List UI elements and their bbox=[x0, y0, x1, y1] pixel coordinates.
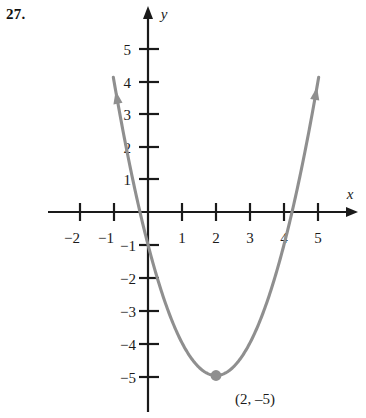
x-tick-label: 1 bbox=[178, 230, 186, 246]
x-tick-label: 3 bbox=[246, 230, 254, 246]
y-axis-label: y bbox=[159, 6, 168, 22]
y-tick-label: −1 bbox=[120, 238, 136, 254]
y-tick-label: 5 bbox=[124, 42, 132, 58]
y-tick-label: −2 bbox=[120, 271, 136, 287]
figure-panel: 27. x y −2 −1 1 2 bbox=[0, 0, 366, 418]
x-tick-label: 5 bbox=[314, 230, 322, 246]
y-tick-label: 4 bbox=[124, 75, 132, 91]
x-axis: x bbox=[48, 186, 358, 217]
x-axis-arrow-icon bbox=[346, 207, 358, 217]
x-tick-label: −1 bbox=[98, 230, 114, 246]
y-axis: y bbox=[143, 6, 168, 412]
parabola-curve bbox=[113, 77, 318, 375]
vertex-annotation: (2, –5) bbox=[211, 370, 275, 408]
x-axis-label: x bbox=[346, 186, 354, 202]
y-tick-label: −5 bbox=[120, 370, 136, 386]
y-tick-label: −4 bbox=[120, 337, 136, 353]
vertex-point-label: (2, –5) bbox=[235, 391, 275, 408]
x-tick-label: −2 bbox=[64, 230, 80, 246]
y-tick-label: 1 bbox=[124, 172, 132, 188]
y-tick-label: 3 bbox=[124, 107, 132, 123]
parabola-curve-group bbox=[113, 77, 319, 375]
x-tick-label: 2 bbox=[212, 230, 220, 246]
y-axis-arrow-icon bbox=[143, 6, 153, 19]
coordinate-plane-graph: x y −2 −1 1 2 3 4 5 bbox=[0, 0, 366, 418]
vertex-point-marker bbox=[211, 370, 222, 381]
y-axis-tick-labels: 5 4 3 2 1 −1 −2 −3 −4 −5 bbox=[120, 42, 136, 386]
y-tick-label: −3 bbox=[120, 304, 136, 320]
